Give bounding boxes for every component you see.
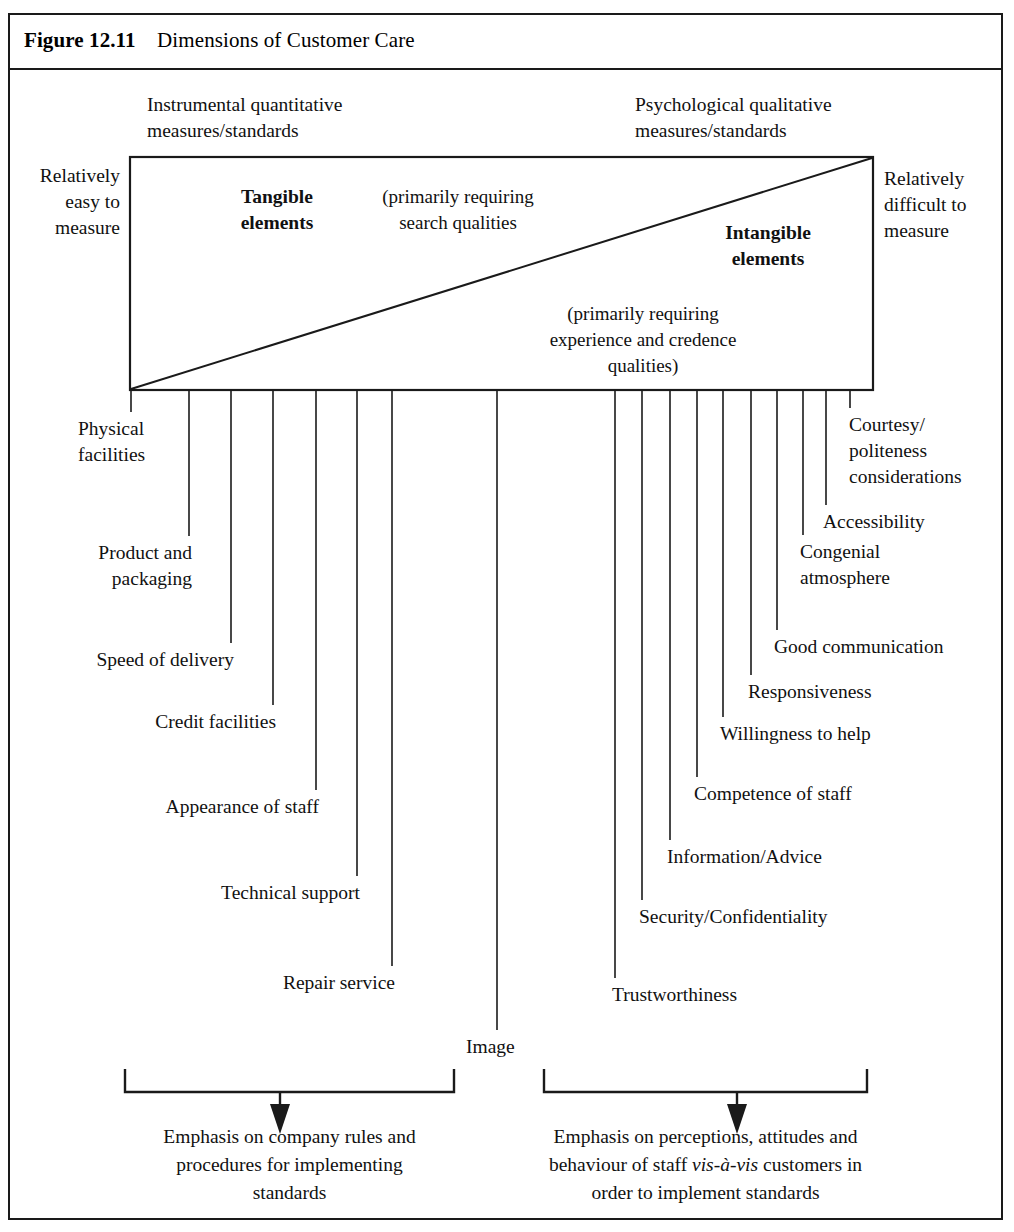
side-left-line-2: easy to <box>65 191 120 212</box>
figure-container: Figure 12.11 Dimensions of Customer Care… <box>0 0 1014 1232</box>
dimension-label-congenial-atmosphere: atmosphere <box>800 567 890 588</box>
bracket-caption-segment: behaviour of staff <box>549 1154 692 1175</box>
tangible-elements-label: Tangible elements <box>241 186 314 233</box>
summary-bracket-left-bracket: Emphasis on company rules andprocedures … <box>125 1069 454 1203</box>
bracket-caption-line-left-bracket-1: procedures for implementing <box>176 1154 403 1175</box>
dimension-callout-courtesy-politeness: Courtesy/politenessconsiderations <box>849 390 962 487</box>
dimension-label-repair-service: Repair service <box>283 972 395 993</box>
side-left-line-3: measure <box>55 217 120 238</box>
tangible-note-line-2: search qualities <box>399 212 517 233</box>
dimension-label-courtesy-politeness: Courtesy/ <box>849 414 925 435</box>
dimension-callout-physical-facilities: Physicalfacilities <box>78 390 145 465</box>
bracket-caption-segment: Emphasis on company rules and <box>163 1126 416 1147</box>
side-left-line-1: Relatively <box>40 165 120 186</box>
tangible-line-1: Tangible <box>241 186 313 207</box>
dimension-label-good-communication: Good communication <box>774 636 944 657</box>
dimension-label-congenial-atmosphere: Congenial <box>800 541 881 562</box>
dimension-label-product-and-packaging: Product and <box>98 542 192 563</box>
dimension-label-competence-of-staff: Competence of staff <box>694 783 852 804</box>
intangible-line-1: Intangible <box>725 222 811 243</box>
dimension-label-security-confidentiality: Security/Confidentiality <box>639 906 828 927</box>
intangible-note-line-2: experience and credence <box>550 329 737 350</box>
bracket-caption-line-left-bracket-0: Emphasis on company rules and <box>163 1126 416 1147</box>
dimension-label-physical-facilities: facilities <box>78 444 145 465</box>
dimension-label-image: Image <box>466 1036 515 1057</box>
diagram-canvas: Instrumental quantitative measures/stand… <box>0 0 1014 1232</box>
dimension-label-credit-facilities: Credit facilities <box>155 711 276 732</box>
dimension-label-information-advice: Information/Advice <box>667 846 822 867</box>
intangible-line-2: elements <box>732 248 805 269</box>
summary-brackets: Emphasis on company rules andprocedures … <box>125 1069 867 1203</box>
dimension-label-courtesy-politeness: considerations <box>849 466 962 487</box>
tangible-note: (primarily requiring search qualities <box>382 186 534 233</box>
header-right-line-1: Psychological qualitative <box>635 94 832 115</box>
summary-bracket-right-bracket: Emphasis on perceptions, attitudes andbe… <box>544 1069 867 1203</box>
dimension-label-product-and-packaging: packaging <box>112 568 192 589</box>
dimension-label-responsiveness: Responsiveness <box>748 681 872 702</box>
tangible-note-line-1: (primarily requiring <box>382 186 534 208</box>
bracket-caption-segment: customers in <box>758 1154 862 1175</box>
dimension-callout-accessibility: Accessibility <box>823 390 925 532</box>
side-label-left: Relatively easy to measure <box>40 165 120 238</box>
intangible-note-line-3: qualities) <box>608 355 679 377</box>
bracket-path-left-bracket <box>125 1069 454 1092</box>
side-right-line-2: difficult to <box>884 194 967 215</box>
intangible-note: (primarily requiring experience and cred… <box>550 303 737 377</box>
dimension-label-accessibility: Accessibility <box>823 511 925 532</box>
bracket-caption-line-right-bracket-1: behaviour of staff vis-à-vis customers i… <box>549 1154 862 1175</box>
dimension-label-physical-facilities: Physical <box>78 418 145 439</box>
dimension-label-trustworthiness: Trustworthiness <box>612 984 737 1005</box>
bracket-caption-segment: procedures for implementing <box>176 1154 403 1175</box>
dimension-label-willingness-to-help: Willingness to help <box>720 723 871 744</box>
bracket-caption-line-right-bracket-2: order to implement standards <box>592 1182 820 1203</box>
header-label-right: Psychological qualitative measures/stand… <box>635 94 832 141</box>
tangible-line-2: elements <box>241 212 314 233</box>
header-left-line-1: Instrumental quantitative <box>147 94 343 115</box>
dimension-label-courtesy-politeness: politeness <box>849 440 927 461</box>
header-right-line-2: measures/standards <box>635 120 787 141</box>
bracket-caption-segment: standards <box>253 1182 327 1203</box>
side-label-right: Relatively difficult to measure <box>884 168 967 241</box>
side-right-line-3: measure <box>884 220 949 241</box>
bracket-caption-line-left-bracket-2: standards <box>253 1182 327 1203</box>
bracket-caption-segment: Emphasis on perceptions, attitudes and <box>554 1126 858 1147</box>
bracket-path-right-bracket <box>544 1069 867 1092</box>
dimension-callouts: PhysicalfacilitiesProduct andpackagingSp… <box>78 390 962 1057</box>
dimension-callout-image: Image <box>466 390 515 1057</box>
header-left-line-2: measures/standards <box>147 120 299 141</box>
intangible-note-line-1: (primarily requiring <box>567 303 719 325</box>
intangible-elements-label: Intangible elements <box>725 222 811 269</box>
bracket-caption-line-right-bracket-0: Emphasis on perceptions, attitudes and <box>554 1126 858 1147</box>
dimension-label-speed-of-delivery: Speed of delivery <box>96 649 234 670</box>
dimension-label-appearance-of-staff: Appearance of staff <box>166 796 320 817</box>
side-right-line-1: Relatively <box>884 168 964 189</box>
header-label-left: Instrumental quantitative measures/stand… <box>147 94 343 141</box>
dimension-callout-technical-support: Technical support <box>221 390 360 903</box>
bracket-caption-segment: vis-à-vis <box>692 1154 758 1175</box>
bracket-caption-segment: order to implement standards <box>592 1182 820 1203</box>
dimension-label-technical-support: Technical support <box>221 882 360 903</box>
